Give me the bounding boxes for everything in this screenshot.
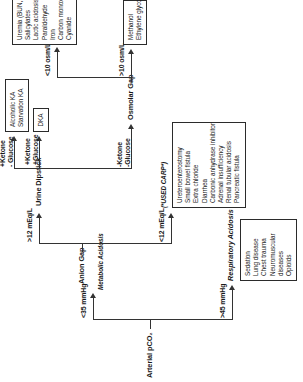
list-item: DKA [37, 113, 45, 127]
connector-anion-split [39, 243, 171, 244]
list-item: Adrenal insufficiency [217, 127, 225, 203]
box-toxic-alcohols: Methanol Ethylene glycol [123, 0, 147, 45]
label-line-1: +Ketone [24, 138, 31, 165]
connector-metabolic-arm [93, 298, 94, 320]
box-ketoacidosis: Alcoholic KA Starvation KA [5, 79, 29, 132]
label-ketone-neg-glucose-neg: -Ketone -Glucose [116, 138, 133, 167]
list-item: Carbonic anhydrase inhibitor [209, 127, 217, 203]
list-item: Starvation KA [17, 84, 25, 127]
list-item: Carbon monoxide [57, 0, 65, 40]
arrow-metabolic [90, 293, 96, 298]
connector-dipstick-stem [39, 166, 40, 169]
list-item: Uremia (BUN, Creat) [16, 0, 24, 40]
label-osmolar-gap-low: <10 osm/L [44, 43, 52, 76]
label-ketone-pos-glucose-pos: +Ketone +Glucose [24, 135, 41, 165]
connector-osmolar-high [131, 54, 132, 78]
label-anion-gap-high: >12 mEq/L [26, 208, 34, 242]
label-ketone-pos-glucose-neg: +Ketone - Glucose [0, 137, 16, 168]
box-mudpiles: Uremia (BUN, Creat) Salicylates Lactic a… [12, 0, 77, 45]
box-used-carp: Ureteroenterostomy Small bowel fistula E… [172, 122, 246, 208]
list-item: Methanol [127, 5, 135, 40]
arrow-osmolar-high [128, 49, 134, 54]
list-item: Ureteroenterostomy [176, 127, 184, 203]
list-item: Alcoholic KA [9, 84, 17, 127]
label-metabolic-acidosis: Metabolic Acidosis [97, 233, 104, 290]
label-pco2-high: >45 mmHg [219, 284, 227, 318]
node-anion-gap: Anion Gap [78, 248, 87, 284]
label-anion-gap-low: <12 mEq/L [158, 208, 166, 242]
label-line-2: - Glucose [7, 137, 14, 168]
list-item: Lung disease [252, 224, 260, 276]
connector-dipstick-split [14, 168, 131, 169]
list-item: Ethylene glycol [135, 5, 143, 40]
box-respiratory-causes: Sedation Lung disease Chest trauma Neuro… [240, 219, 297, 281]
list-item: Cyanide [65, 0, 73, 40]
box-dka: DKA [33, 108, 49, 132]
list-item: Opioids [285, 224, 293, 276]
list-item: Small bowel fistula [184, 127, 192, 203]
connector-anion-stem [82, 244, 83, 252]
list-item: Pancreatic fistula [233, 127, 241, 203]
list-item: Paraldehyde [41, 0, 49, 40]
label-line-1: +Ketone [0, 140, 6, 167]
arrow-anion-low [168, 213, 174, 218]
connector-root-split [93, 319, 232, 320]
list-item: Salicylates [24, 0, 32, 40]
connector-osmolar-split [57, 77, 131, 78]
list-item: Renal tubular acidosis [225, 127, 233, 203]
list-item: Sedation [244, 224, 252, 276]
connector-osmolar-stem [131, 78, 132, 82]
label-respiratory-acidosis: Respiratory Acidosis [226, 209, 235, 281]
connector-osmolar-low [57, 52, 58, 78]
arrow-dipstick-c [128, 124, 134, 129]
label-used-carp-mnemonic: (*USED CARP*) [160, 162, 167, 208]
list-item: Iron [49, 0, 57, 40]
arrow-respiratory [229, 285, 235, 290]
list-item: Lactic acidosis [32, 0, 40, 40]
connector-anion-low [171, 218, 172, 244]
list-item: Chest trauma [260, 224, 268, 276]
label-line-1: -Ketone [116, 142, 123, 167]
label-pco2-low: <35 mmHg [80, 284, 88, 318]
connector-respiratory-arm [232, 290, 233, 320]
label-line-2: -Glucose [124, 138, 131, 167]
list-item: Extra chloride [192, 127, 200, 203]
list-item: diseases [277, 224, 285, 276]
flowchart-canvas: Arterial pCO₂ <35 mmHg Metabolic Acidosi… [0, 0, 303, 382]
connector-root-stem [150, 320, 151, 329]
arrow-osmolar-low [54, 47, 60, 52]
connector-anion-high [39, 218, 40, 244]
list-item: Neuromuscular [269, 224, 277, 276]
label-osmolar-gap-high: >10 osm/L [118, 43, 126, 76]
label-line-2: +Glucose [32, 135, 39, 165]
arrow-anion-high [36, 213, 42, 218]
node-arterial-pco2: Arterial pCO₂ [146, 332, 155, 378]
list-item: Diarrhea [201, 127, 209, 203]
